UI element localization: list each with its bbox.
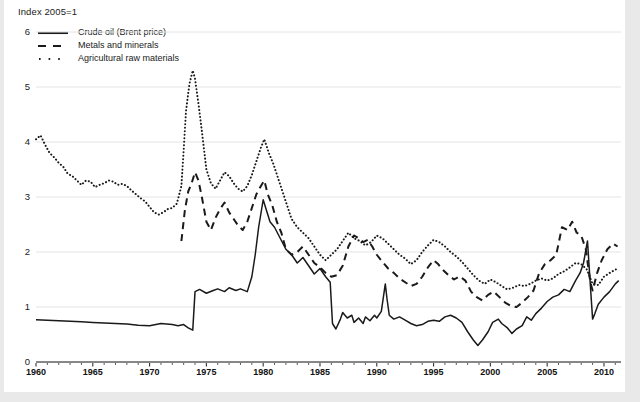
series-line-crude-oil [36,200,619,346]
series-line-agricultural-raw-materials [36,71,619,290]
x-tick-label: 1995 [416,367,452,377]
page-background: Index 2005=1 Crude oil (Brent price) Met… [0,0,640,402]
y-tick-label: 5 [16,81,30,92]
x-tick-label: 1990 [359,367,395,377]
line-chart-plot [0,0,640,402]
x-tick-label: 2005 [529,367,565,377]
x-tick-label: 1965 [75,367,111,377]
x-tick-label: 1980 [245,367,281,377]
y-tick-label: 1 [16,301,30,312]
x-tick-label: 1960 [18,367,54,377]
y-tick-label: 6 [16,26,30,37]
y-tick-label: 3 [16,191,30,202]
x-tick-label: 2000 [472,367,508,377]
x-tick-label: 1975 [188,367,224,377]
y-tick-label: 4 [16,136,30,147]
y-tick-label: 0 [16,356,30,367]
x-tick-label: 1985 [302,367,338,377]
x-tick-label: 1970 [132,367,168,377]
x-tick-label: 2010 [586,367,622,377]
y-tick-label: 2 [16,246,30,257]
series-line-metals-minerals [181,172,617,307]
